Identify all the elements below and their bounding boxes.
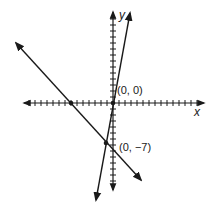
origin-label: (0, 0) [117, 85, 143, 96]
x-axis-label: x [194, 106, 200, 118]
point-intersection [104, 141, 109, 146]
point-origin [111, 101, 116, 106]
coordinate-graph [0, 0, 212, 204]
y-intercept-label: (0, −7) [119, 142, 151, 153]
line-through-y-intercept [16, 43, 141, 180]
y-axis-label: y [119, 9, 125, 21]
point-x-intercept [69, 101, 74, 106]
